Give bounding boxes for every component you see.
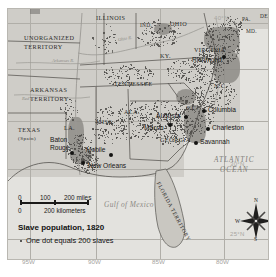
city-dot-charleston	[206, 127, 210, 131]
label-state-mississippi: MISS.	[96, 119, 114, 125]
longitude-strip: 95W 90W 85W 80W	[0, 258, 276, 272]
label-state-indiana: IND.	[140, 23, 152, 28]
label-state-illinois: ILLINOIS	[96, 15, 125, 21]
city-dot-new-orleans	[81, 161, 85, 165]
label-state-pennsylvania: PA.	[242, 17, 251, 22]
label-unorganized-territory: UNORGANIZED TERRITORY	[24, 35, 75, 50]
scale-tick-miles-start	[20, 200, 22, 205]
compass-rose: N S E W	[234, 195, 269, 245]
label-state-south-carolina: S.C.	[186, 105, 198, 111]
compass-label-north: N	[254, 197, 258, 203]
slave-population-map-figure: UNORGANIZED TERRITORY ARKANSAS TERRITORY…	[0, 0, 276, 277]
label-latitude-30n: 30°N	[230, 161, 245, 167]
city-dot-richmond	[222, 55, 226, 59]
label-state-virginia: VIRGINIA	[194, 47, 225, 53]
compass-label-west: W	[235, 218, 240, 224]
label-state-delaware: DEL.	[260, 14, 269, 19]
label-state-louisiana: LA.	[64, 125, 75, 131]
scale-tick-miles-mid	[54, 200, 56, 205]
label-latitude-40n: 40°N	[214, 15, 229, 21]
label-city-macon: Macon	[144, 125, 164, 132]
legend-title: Slave population, 1820	[18, 223, 166, 232]
label-city-baton-rouge: Baton Rouge	[50, 137, 69, 151]
city-dot-augusta	[184, 115, 188, 119]
label-city-new-orleans: New Orleans	[88, 163, 126, 170]
label-river-red: Red R.	[22, 97, 34, 102]
label-state-georgia: GEORGIA	[160, 137, 191, 143]
legend-note-row: One dot equals 200 slaves	[18, 236, 166, 245]
scale-km-0: 0	[18, 207, 22, 214]
city-dot-baton-rouge	[70, 151, 74, 155]
label-river-arkansas: Arkansas R.	[52, 59, 74, 64]
scale-km-200: 200 kilometers	[44, 207, 86, 214]
label-city-columbia: Columbia	[208, 107, 236, 114]
scale-miles-100: 100	[40, 194, 51, 201]
label-city-richmond: Richmond	[192, 57, 222, 64]
label-state-maryland: MD.	[246, 29, 257, 34]
label-longitude-85w: 85W	[152, 258, 165, 265]
label-state-kentucky: KY.	[160, 53, 171, 59]
city-dot-columbia	[202, 109, 206, 113]
label-state-tennessee: TENNESSEE	[114, 81, 152, 87]
label-longitude-80w: 80W	[216, 258, 229, 265]
label-texas-spain: TEXAS (Spain)	[18, 127, 40, 141]
label-state-north-carolina: N.C.	[214, 83, 227, 89]
legend-dot-swatch	[20, 240, 22, 242]
scale-bar-miles: 0 100 200 miles	[18, 194, 166, 205]
top-edge-artifact	[30, 9, 40, 14]
label-city-charleston: Charleston	[212, 125, 244, 132]
scale-tick-miles-end	[87, 200, 89, 205]
label-city-mobile: Mobile	[86, 147, 105, 154]
scale-bar-kilometers: 0 200 kilometers	[18, 207, 166, 218]
label-longitude-95w: 95W	[22, 258, 35, 265]
city-dot-mobile	[109, 153, 113, 157]
label-city-savannah: Savannah	[200, 139, 230, 146]
label-state-ohio: OHIO	[170, 21, 187, 27]
label-state-alabama: ALA.	[124, 109, 140, 115]
city-dot-savannah	[194, 141, 198, 145]
city-dot-macon	[168, 123, 172, 127]
label-city-augusta: Augusta	[156, 113, 180, 120]
label-arkansas-territory: ARKANSAS TERRITORY	[30, 87, 69, 102]
legend-note-text: One dot equals 200 slaves	[26, 236, 114, 245]
compass-label-south: S	[254, 236, 257, 242]
map-legend: 0 100 200 miles 0 200 kilometers Slave p…	[18, 194, 166, 245]
label-longitude-90w: 90W	[88, 258, 101, 265]
map-plate: UNORGANIZED TERRITORY ARKANSAS TERRITORY…	[7, 8, 269, 260]
